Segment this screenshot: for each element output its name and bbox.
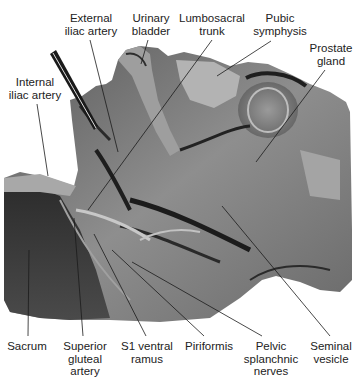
label-prostate-gland: Prostate gland	[304, 42, 358, 67]
label-superior-gluteal-artery: Superior gluteal artery	[60, 340, 110, 378]
label-internal-iliac-artery: Internal iliac artery	[4, 76, 66, 101]
label-urinary-bladder: Urinary bladder	[126, 12, 176, 37]
label-sacrum: Sacrum	[2, 340, 52, 353]
label-s1-ventral-ramus: S1 ventral ramus	[116, 340, 178, 365]
label-seminal-vesicle: Seminal vesicle	[304, 340, 358, 365]
anatomy-figure: External iliac artery Urinary bladder Lu…	[0, 0, 358, 380]
pointer-internal-iliac-artery	[37, 104, 48, 176]
label-external-iliac-artery: External iliac artery	[62, 12, 120, 37]
label-piriformis: Piriformis	[178, 340, 240, 353]
label-pubic-symphysis: Pubic symphysis	[248, 12, 312, 37]
label-lumbosacral-trunk: Lumbosacral trunk	[176, 12, 248, 37]
label-pelvic-splanchnic-nerves: Pelvic splanchnic nerves	[238, 340, 304, 378]
